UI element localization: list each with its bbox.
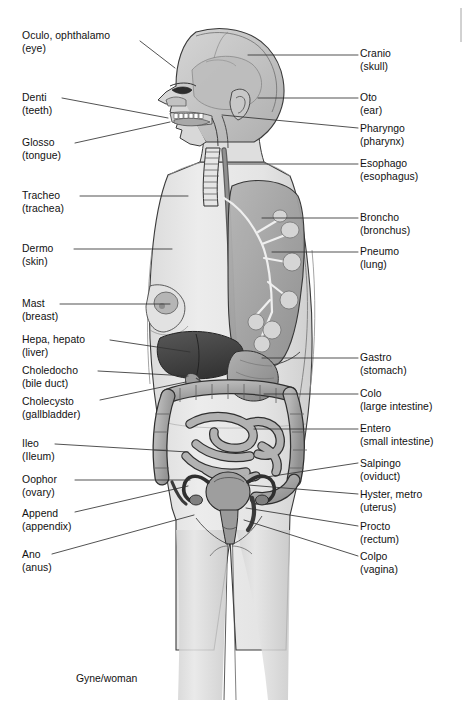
label-esophago: Esophago(esophagus) xyxy=(360,158,418,183)
label-oophor: Oophor(ovary) xyxy=(22,474,57,499)
label-term-oculo: Oculo, ophthalamo xyxy=(22,30,110,43)
label-english-ano: (anus) xyxy=(22,562,52,575)
label-term-hepa: Hepa, hepato xyxy=(22,334,85,347)
leader-line-denti xyxy=(62,98,168,118)
label-term-colpo: Colpo xyxy=(360,551,398,564)
label-oculo: Oculo, ophthalamo(eye) xyxy=(22,30,110,55)
label-colpo: Colpo(vagina) xyxy=(360,551,398,576)
label-pneumo: Pneumo(lung) xyxy=(360,246,399,271)
label-tracheo: Tracheo(trachea) xyxy=(22,190,64,215)
label-salpingo: Salpingo(oviduct) xyxy=(360,458,401,483)
label-term-cholecysto: Cholecysto xyxy=(22,396,80,409)
label-term-oto: Oto xyxy=(360,92,382,105)
label-term-esophago: Esophago xyxy=(360,158,418,171)
leader-line-hyster xyxy=(248,485,358,494)
label-hepa: Hepa, hepato(liver) xyxy=(22,334,85,359)
label-english-tracheo: (trachea) xyxy=(22,203,64,216)
label-choledocho: Choledocho(bile duct) xyxy=(22,365,78,390)
label-term-procto: Procto xyxy=(360,521,399,534)
label-english-colo: (large intestine) xyxy=(360,401,432,414)
label-ileo: Ileo(Ileum) xyxy=(22,438,55,463)
label-cholecysto: Cholecysto(gallbladder) xyxy=(22,396,80,421)
label-term-denti: Denti xyxy=(22,92,52,105)
label-term-ileo: Ileo xyxy=(22,438,55,451)
leader-line-ileo xyxy=(55,444,188,452)
leader-line-colpo xyxy=(244,520,358,556)
leader-line-salpingo xyxy=(260,463,358,478)
label-english-append: (appendix) xyxy=(22,521,72,534)
label-colo: Colo(large intestine) xyxy=(360,388,432,413)
leader-line-hepa xyxy=(110,340,190,352)
label-glosso: Glosso(tongue) xyxy=(22,137,61,162)
label-english-gastro: (stomach) xyxy=(360,365,407,378)
label-term-entero: Entero xyxy=(360,423,434,436)
label-english-cranio: (skull) xyxy=(360,61,391,74)
label-ano: Ano(anus) xyxy=(22,549,52,574)
label-term-oophor: Oophor xyxy=(22,474,57,487)
label-term-salpingo: Salpingo xyxy=(360,458,401,471)
label-entero: Entero(small intestine) xyxy=(360,423,434,448)
figure-caption: Gyne/woman xyxy=(76,673,137,684)
label-english-hepa: (liver) xyxy=(22,347,85,360)
label-english-hyster: (uterus) xyxy=(360,502,422,515)
label-term-append: Append xyxy=(22,508,72,521)
label-hyster: Hyster, metro(uterus) xyxy=(360,489,422,514)
label-mast: Mast(breast) xyxy=(22,298,58,323)
label-english-salpingo: (oviduct) xyxy=(360,471,401,484)
label-gastro: Gastro(stomach) xyxy=(360,352,407,377)
label-pharyngo: Pharyngo(pharynx) xyxy=(360,123,405,148)
label-english-pharyngo: (pharynx) xyxy=(360,136,405,149)
leader-line-oculo xyxy=(140,41,175,68)
label-english-choledocho: (bile duct) xyxy=(22,378,78,391)
leader-line-pharyngo xyxy=(222,115,358,128)
label-english-pneumo: (lung) xyxy=(360,259,399,272)
label-english-broncho: (bronchus) xyxy=(360,225,410,238)
label-term-colo: Colo xyxy=(360,388,432,401)
label-english-ileo: (Ileum) xyxy=(22,451,55,464)
label-english-dermo: (skin) xyxy=(22,256,53,269)
leader-line-cholecysto xyxy=(100,382,186,400)
label-term-pharyngo: Pharyngo xyxy=(360,123,405,136)
label-procto: Procto(rectum) xyxy=(360,521,399,546)
label-broncho: Broncho(bronchus) xyxy=(360,212,410,237)
label-term-mast: Mast xyxy=(22,298,58,311)
label-term-choledocho: Choledocho xyxy=(22,365,78,378)
leader-line-ano xyxy=(52,515,194,554)
label-term-cranio: Cranio xyxy=(360,48,391,61)
label-english-oto: (ear) xyxy=(360,105,382,118)
leader-line-glosso xyxy=(75,122,170,143)
label-term-dermo: Dermo xyxy=(22,243,53,256)
label-term-broncho: Broncho xyxy=(360,212,410,225)
label-english-denti: (teeth) xyxy=(22,105,52,118)
anatomy-figure: Oculo, ophthalamo(eye)Denti(teeth)Glosso… xyxy=(0,0,466,702)
label-term-ano: Ano xyxy=(22,549,52,562)
label-english-colpo: (vagina) xyxy=(360,564,398,577)
label-english-oculo: (eye) xyxy=(22,43,110,56)
label-term-glosso: Glosso xyxy=(22,137,61,150)
label-oto: Oto(ear) xyxy=(360,92,382,117)
label-english-esophago: (esophagus) xyxy=(360,171,418,184)
label-dermo: Dermo(skin) xyxy=(22,243,53,268)
label-english-entero: (small intestine) xyxy=(360,436,434,449)
label-english-procto: (rectum) xyxy=(360,534,399,547)
label-denti: Denti(teeth) xyxy=(22,92,52,117)
leader-line-choledocho xyxy=(98,371,188,376)
label-english-cholecysto: (gallbladder) xyxy=(22,409,80,422)
label-append: Append(appendix) xyxy=(22,508,72,533)
label-english-oophor: (ovary) xyxy=(22,487,57,500)
label-term-tracheo: Tracheo xyxy=(22,190,64,203)
label-term-pneumo: Pneumo xyxy=(360,246,399,259)
label-english-mast: (breast) xyxy=(22,311,58,324)
label-english-glosso: (tongue) xyxy=(22,150,61,163)
leader-line-append xyxy=(75,486,188,512)
label-term-hyster: Hyster, metro xyxy=(360,489,422,502)
label-cranio: Cranio(skull) xyxy=(360,48,391,73)
leader-line-procto xyxy=(246,508,358,526)
label-term-gastro: Gastro xyxy=(360,352,407,365)
